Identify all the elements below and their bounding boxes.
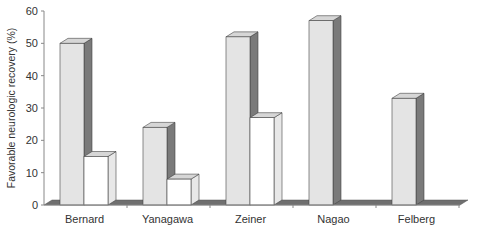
y-axis: 0102030405060 <box>26 5 44 211</box>
x-tick-label: Yanagawa <box>142 213 194 225</box>
x-tick-label: Nagao <box>317 213 349 225</box>
y-tick-label: 50 <box>26 37 38 49</box>
x-tick-label: Zeiner <box>235 213 267 225</box>
y-tick-label: 10 <box>26 167 38 179</box>
bars <box>60 16 424 205</box>
chart-canvas: 0102030405060 BernardYanagawaZeinerNagao… <box>0 0 477 234</box>
bar-chart: 0102030405060 BernardYanagawaZeinerNagao… <box>0 0 477 234</box>
y-tick-label: 40 <box>26 70 38 82</box>
bar <box>309 16 341 205</box>
bar <box>250 113 282 205</box>
y-tick-label: 20 <box>26 134 38 146</box>
x-tick-label: Felberg <box>398 213 435 225</box>
y-tick-label: 0 <box>32 199 38 211</box>
x-tick-label: Bernard <box>65 213 104 225</box>
y-tick-label: 30 <box>26 102 38 114</box>
bar <box>167 174 199 205</box>
bar <box>84 152 116 206</box>
bar <box>392 93 424 205</box>
x-axis: BernardYanagawaZeinerNagaoFelberg <box>44 205 460 225</box>
y-tick-label: 60 <box>26 5 38 17</box>
y-axis-label: Favorable neurologic recovery (%) <box>5 28 17 188</box>
